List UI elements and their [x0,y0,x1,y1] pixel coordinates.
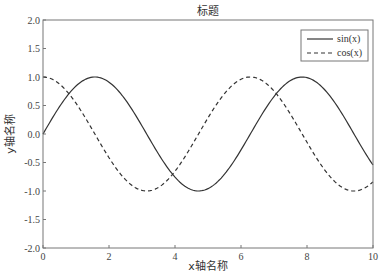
y-tick-label: -2.0 [24,243,40,254]
y-tick-label: -1.5 [24,214,40,225]
y-tick-label: -0.5 [24,157,40,168]
y-tick-label: -1.0 [24,186,40,197]
x-tick-label: 10 [368,251,378,262]
x-tick-label: 4 [173,251,178,262]
x-tick-label: 2 [107,251,112,262]
legend-label-cos: cos(x) [337,47,362,59]
legend: sin(x) cos(x) [301,30,368,61]
series-line-sin [43,77,373,191]
y-tick-label: 0.5 [28,100,41,111]
legend-label-sin: sin(x) [337,33,360,45]
y-axis-label: y轴名称 [3,114,17,154]
y-tick-label: 0.0 [28,129,41,140]
x-axis-label: x轴名称 [188,259,228,273]
chart-title: 标题 [197,4,219,18]
y-tick-label: 2.0 [28,15,41,26]
x-tick-label: 6 [239,251,244,262]
x-tick-label: 0 [41,251,46,262]
y-tick-label: 1.0 [28,72,41,83]
line-chart: 标题 2.01.51.00.50.0-0.5-1.0-1.5-2.0 02468… [0,0,381,277]
x-tick-label: 8 [305,251,310,262]
series-line-cos [43,77,373,191]
plot-curves [43,77,373,191]
y-tick-label: 1.5 [28,43,41,54]
